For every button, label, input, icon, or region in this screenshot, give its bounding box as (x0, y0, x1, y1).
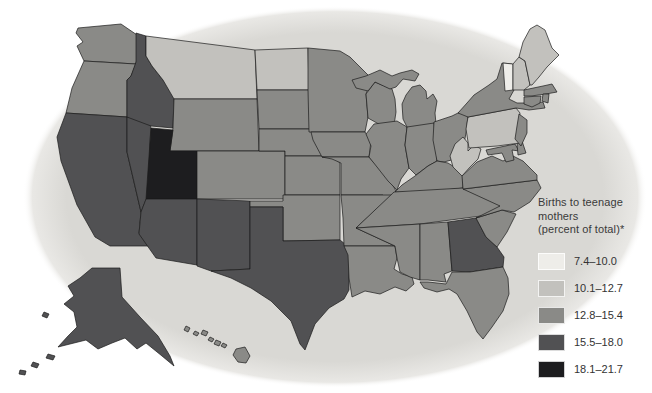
legend-row: 18.1–21.7 (538, 356, 650, 383)
state-ks: Kansas (285, 156, 340, 195)
state-co: Colorado (197, 151, 285, 199)
legend-title: Births to teenage mothers (percent of to… (538, 196, 650, 237)
state-al: Alabama (420, 222, 452, 282)
legend-swatch-4 (538, 334, 565, 351)
legend-range-label: 12.8–15.4 (574, 309, 623, 321)
legend-range-label: 18.1–21.7 (574, 363, 623, 375)
state-ri: Rhode Island (542, 94, 549, 103)
legend-range-label: 7.4–10.0 (574, 255, 617, 267)
state-wa: Washington (76, 24, 140, 64)
legend-row: 7.4–10.0 (538, 248, 650, 275)
legend-range-label: 10.1–12.7 (574, 282, 623, 294)
legend-row: 12.8–15.4 (538, 302, 650, 329)
state-vt: Vermont (503, 63, 513, 91)
legend-swatch-3 (538, 307, 565, 324)
state-nd: North Dakota (255, 48, 309, 90)
state-ia: Iowa (311, 132, 371, 157)
legend-swatch-2 (538, 280, 565, 297)
legend-swatch-5 (538, 361, 565, 378)
legend-row: 15.5–18.0 (538, 329, 650, 356)
map-legend: Births to teenage mothers (percent of to… (538, 196, 650, 383)
legend-rows: 7.4–10.010.1–12.712.8–15.415.5–18.018.1–… (538, 248, 650, 383)
legend-range-label: 15.5–18.0 (574, 336, 623, 348)
legend-title-line: Births to teenage (538, 196, 650, 210)
state-wy: Wyoming (170, 99, 259, 151)
legend-row: 10.1–12.7 (538, 275, 650, 302)
legend-swatch-1 (538, 253, 565, 270)
legend-title-line: mothers (538, 210, 650, 224)
state-or: Oregon (66, 61, 136, 117)
legend-title-line: (percent of total)* (538, 223, 650, 237)
state-nm: New Mexico (197, 199, 250, 271)
